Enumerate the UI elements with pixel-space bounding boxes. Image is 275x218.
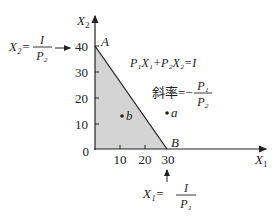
x-intercept-denominator: P₁ xyxy=(179,197,192,211)
point-b-label: b xyxy=(126,108,133,123)
y-tick-10: 10 xyxy=(75,117,88,132)
y-tick-40: 40 xyxy=(75,39,88,54)
x-tick-10: 10 xyxy=(114,152,127,167)
budget-constraint-diagram: 10 20 30 40 10 20 30 0 X2 X1 A B b a P₁X… xyxy=(0,0,275,218)
budget-equation: P₁X₁+P₂X₂=I xyxy=(129,56,197,70)
y-tick-20: 20 xyxy=(75,91,88,106)
y-intercept-lhs: X₂= xyxy=(8,39,30,54)
y-tick-30: 30 xyxy=(75,65,88,80)
x-intercept-numerator: I xyxy=(183,181,189,195)
point-a-dot xyxy=(165,111,169,115)
point-a-label: a xyxy=(171,105,178,120)
x-intercept-lhs: X₁= xyxy=(142,186,164,201)
slope-numerator: P₁ xyxy=(196,79,209,93)
origin-label: 0 xyxy=(83,144,90,159)
slope-label: 斜率=− xyxy=(152,85,193,100)
slope-denominator: P₂ xyxy=(196,95,209,109)
point-B-label: B xyxy=(171,135,179,150)
y-intercept-numerator: I xyxy=(39,33,45,47)
x-tick-30: 30 xyxy=(162,152,175,167)
x-axis-label: X1 xyxy=(254,152,267,169)
point-A-label: A xyxy=(100,34,109,49)
x-tick-20: 20 xyxy=(139,152,152,167)
point-b-dot xyxy=(120,114,124,118)
y-axis-label: X2 xyxy=(76,13,89,30)
y-intercept-denominator: P₂ xyxy=(35,49,48,63)
